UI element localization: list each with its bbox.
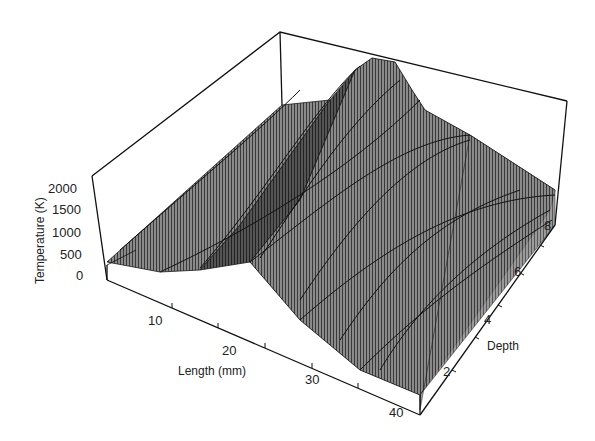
z-tick-0: 0 [76,268,83,283]
surface-plot [0,0,595,441]
y-tick-6: 6 [514,264,521,279]
x-tick-40: 40 [389,405,403,420]
y-axis-label: Depth [487,339,519,353]
x-axis-label: Length (mm) [178,364,246,378]
z-tick-2000: 2000 [48,181,77,196]
z-tick-500: 500 [60,247,82,262]
z-tick-1500: 1500 [52,202,81,217]
y-tick-2: 2 [443,364,450,379]
y-tick-4: 4 [484,312,491,327]
temperature-surface [107,58,555,410]
x-tick-20: 20 [222,343,236,358]
z-axis-label: Temperature (K) [33,197,47,284]
y-tick-8: 8 [544,218,551,233]
z-tick-1000: 1000 [52,225,81,240]
x-tick-10: 10 [148,313,162,328]
x-tick-30: 30 [305,372,319,387]
